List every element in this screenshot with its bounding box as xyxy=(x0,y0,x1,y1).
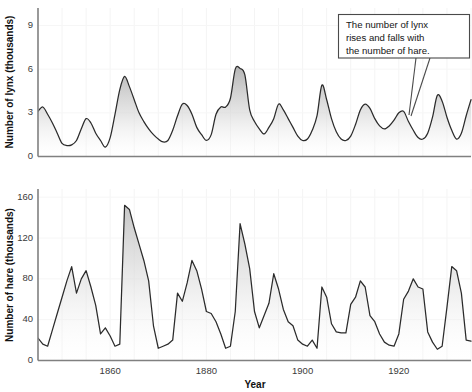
y-tick-label: 3 xyxy=(28,106,33,117)
annotation-callout: The number of lynx rises and falls with … xyxy=(339,15,470,117)
hare-y-tick-labels: 04080120160 xyxy=(17,191,33,365)
x-axis-title: Year xyxy=(244,379,265,390)
lynx-hare-figure: 0369 Number of lynx (thousands) 04080120… xyxy=(0,0,472,392)
y-tick-label: 160 xyxy=(17,191,33,202)
callout-line-3: the number of hare. xyxy=(346,45,430,56)
x-tick-label: 1880 xyxy=(196,365,217,376)
y-tick-label: 0 xyxy=(28,150,33,161)
hare-x-tick-labels: 1860188019001920 xyxy=(100,365,410,376)
chart-canvas: 0369 Number of lynx (thousands) 04080120… xyxy=(0,0,472,392)
y-tick-label: 40 xyxy=(22,313,33,324)
y-tick-label: 9 xyxy=(28,19,33,30)
y-tick-label: 0 xyxy=(28,354,33,365)
callout-line-2: rises and falls with xyxy=(346,32,424,43)
x-tick-label: 1900 xyxy=(292,365,313,376)
y-tick-label: 80 xyxy=(22,272,33,283)
x-tick-label: 1860 xyxy=(100,365,121,376)
callout-pointer-left xyxy=(409,58,416,115)
lynx-y-axis-title: Number of lynx (thousands) xyxy=(4,16,15,149)
y-tick-label: 6 xyxy=(28,63,33,74)
callout-pointer-right xyxy=(411,58,430,116)
callout-line-1: The number of lynx xyxy=(346,19,428,30)
y-tick-label: 120 xyxy=(17,232,33,243)
x-tick-label: 1920 xyxy=(388,365,409,376)
hare-panel: 04080120160 1860188019001920 Number of h… xyxy=(4,189,471,390)
lynx-y-tick-labels: 0369 xyxy=(28,19,33,161)
hare-y-axis-title: Number of hare (thousands) xyxy=(4,208,15,342)
